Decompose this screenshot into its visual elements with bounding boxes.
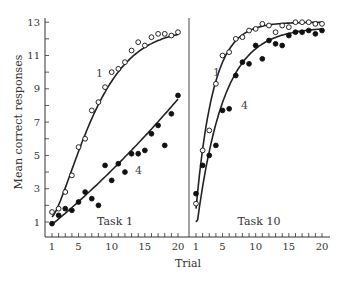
x-tick-label: 10 <box>105 241 118 252</box>
open-data-point <box>76 145 81 150</box>
axes: 1357911131510152015101520 <box>27 17 330 252</box>
y-tick-label: 5 <box>34 150 40 161</box>
filled-data-point <box>240 60 245 65</box>
x-tick-label: 20 <box>316 241 329 252</box>
filled-data-point <box>76 200 81 205</box>
open-data-point <box>162 31 167 36</box>
filled-data-point <box>313 31 318 36</box>
y-tick-label: 1 <box>34 217 40 228</box>
open-data-point <box>300 20 305 25</box>
open-data-point <box>233 36 238 41</box>
open-data-point <box>200 148 205 153</box>
open-data-point <box>260 21 265 26</box>
filled-data-point <box>207 153 212 158</box>
y-tick-label: 11 <box>27 50 40 61</box>
filled-data-point <box>194 191 199 196</box>
open-data-point <box>313 21 318 26</box>
filled-data-point <box>96 203 101 208</box>
open-data-point <box>109 70 114 75</box>
filled-data-point <box>123 170 128 175</box>
filled-data-point <box>156 123 161 128</box>
filled-data-point <box>213 143 218 148</box>
learning-curves-chart: 1357911131510152015101520 Mean correct r… <box>0 0 343 284</box>
filled-data-point <box>63 206 68 211</box>
panel-label-task-10: Task 10 <box>238 215 281 228</box>
filled-data-point <box>233 73 238 78</box>
filled-data-point <box>220 108 225 113</box>
open-data-point <box>149 35 154 40</box>
open-data-point <box>253 26 258 31</box>
filled-data-point <box>227 106 232 111</box>
filled-data-point <box>280 43 285 48</box>
open-data-point <box>63 190 68 195</box>
x-tick-label: 1 <box>49 241 55 252</box>
open-data-point <box>320 21 325 26</box>
open-data-point <box>306 20 311 25</box>
y-axis-title: Mean correct responses <box>12 54 25 189</box>
filled-data-point <box>273 41 278 46</box>
open-data-point <box>273 30 278 35</box>
open-data-point <box>129 48 134 53</box>
open-data-point <box>142 43 147 48</box>
open-data-point <box>267 23 272 28</box>
filled-data-point <box>247 61 252 66</box>
open-data-point <box>169 33 174 38</box>
open-data-point <box>136 40 141 45</box>
series-label-1-task-1: 1 <box>96 67 103 80</box>
x-tick-label: 20 <box>172 241 185 252</box>
filled-data-point <box>56 213 61 218</box>
open-data-point <box>156 31 161 36</box>
open-data-point <box>89 108 94 113</box>
open-data-point <box>83 136 88 141</box>
filled-data-point <box>149 131 154 136</box>
filled-data-point <box>176 93 181 98</box>
filled-data-point <box>142 148 147 153</box>
open-data-point <box>69 173 74 178</box>
filled-data-point <box>200 163 205 168</box>
open-data-point <box>220 53 225 58</box>
filled-data-point <box>89 196 94 201</box>
open-data-point <box>280 23 285 28</box>
x-axis-title: Trial <box>175 257 202 270</box>
open-data-point <box>50 210 55 215</box>
y-tick-label: 3 <box>34 183 40 194</box>
open-data-point <box>247 28 252 33</box>
filled-data-point <box>267 38 272 43</box>
filled-data-point <box>169 111 174 116</box>
series-label-4-task-10: 4 <box>241 99 248 112</box>
plot-area <box>50 20 325 226</box>
open-data-point <box>213 81 218 86</box>
filled-data-point <box>69 208 74 213</box>
x-tick-label: 5 <box>219 241 225 252</box>
filled-data-point <box>320 28 325 33</box>
filled-data-point <box>306 28 311 33</box>
filled-data-point <box>116 161 121 166</box>
filled-data-point <box>103 163 108 168</box>
fitted-curve <box>196 29 322 222</box>
open-data-point <box>176 30 181 35</box>
open-data-point <box>194 201 199 206</box>
filled-data-point <box>83 190 88 195</box>
filled-data-point <box>50 221 55 226</box>
filled-data-point <box>136 151 141 156</box>
filled-data-point <box>300 30 305 35</box>
open-data-point <box>207 128 212 133</box>
open-data-point <box>227 50 232 55</box>
open-data-point <box>56 206 61 211</box>
filled-data-point <box>293 30 298 35</box>
filled-data-point <box>260 56 265 61</box>
open-data-point <box>240 35 245 40</box>
x-tick-label: 10 <box>249 241 262 252</box>
open-data-point <box>286 25 291 30</box>
series-label-1-task-10: 1 <box>213 66 220 79</box>
open-data-point <box>293 20 298 25</box>
open-data-point <box>96 100 101 105</box>
series-label-4-task-1: 4 <box>135 164 142 177</box>
fitted-curve <box>196 22 322 208</box>
filled-data-point <box>253 43 258 48</box>
x-tick-label: 15 <box>282 241 295 252</box>
y-tick-label: 13 <box>27 17 40 28</box>
y-tick-label: 9 <box>34 83 40 94</box>
open-data-point <box>123 60 128 65</box>
open-data-point <box>116 66 121 71</box>
